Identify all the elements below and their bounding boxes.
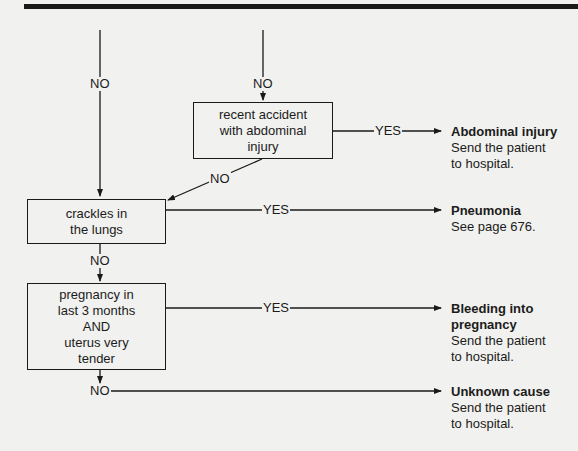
outcome-title: Unknown cause (451, 384, 550, 400)
outcome-abdominal-injury: Abdominal injury Send the patient to hos… (451, 124, 557, 172)
outcome-line: to hospital. (451, 349, 546, 365)
edge-label-accident-yes: YES (374, 124, 402, 138)
outcome-bleeding-into-pregnancy: Bleeding into pregnancy Send the patient… (451, 301, 546, 365)
outcome-line: Send the patient (451, 333, 546, 349)
outcome-unknown-cause: Unknown cause Send the patient to hospit… (451, 384, 550, 432)
decision-pregnancy-uterus-tender: pregnancy in last 3 months AND uterus ve… (27, 283, 166, 370)
outcome-pneumonia: Pneumonia See page 676. (451, 203, 536, 235)
edge-label-pregnancy-yes: YES (262, 301, 290, 315)
node-line: tender (78, 351, 115, 367)
node-line: pregnancy in (59, 287, 133, 303)
outcome-title: Bleeding into (451, 301, 546, 317)
outcome-title: Abdominal injury (451, 124, 557, 140)
edge-label-accident-no: NO (209, 172, 231, 186)
edge-label-crackles-yes: YES (262, 203, 290, 217)
node-line: AND (83, 319, 110, 335)
outcome-line: Send the patient (451, 400, 550, 416)
node-line: crackles in (66, 206, 127, 222)
outcome-line: Send the patient (451, 140, 557, 156)
node-line: with abdominal (220, 123, 307, 139)
decision-recent-accident: recent accident with abdominal injury (193, 102, 333, 159)
node-line: uterus very (64, 335, 128, 351)
edge-label-top-no: NO (252, 77, 274, 91)
node-line: recent accident (219, 107, 307, 123)
outcome-title: pregnancy (451, 317, 546, 333)
node-line: the lungs (70, 222, 123, 238)
node-line: injury (247, 139, 278, 155)
node-line: last 3 months (58, 303, 135, 319)
outcome-title: Pneumonia (451, 203, 536, 219)
decision-crackles-in-lungs: crackles in the lungs (27, 199, 166, 244)
edge-label-pregnancy-no: NO (89, 384, 111, 398)
outcome-line: to hospital. (451, 156, 557, 172)
edge-label-left-no: NO (89, 77, 111, 91)
edge-label-crackles-no: NO (89, 254, 111, 268)
flowchart-page: NO NO YES NO YES NO YES NO recent accide… (0, 0, 578, 451)
outcome-line: See page 676. (451, 219, 536, 235)
outcome-line: to hospital. (451, 416, 550, 432)
